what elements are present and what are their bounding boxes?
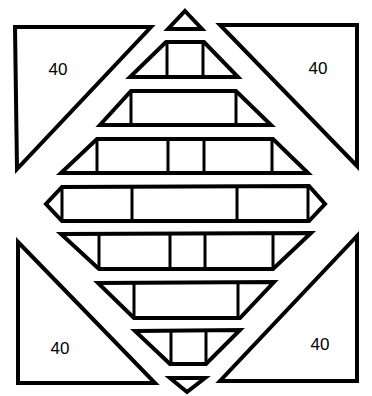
triangle-label-bottom-right: 40 [311, 335, 330, 354]
band-top-triangle [168, 11, 202, 29]
band-5 [61, 233, 311, 269]
band-2 [100, 91, 271, 125]
diagram-canvas: 40 40 40 40 [0, 0, 372, 396]
triangle-label-top-right: 40 [309, 59, 328, 78]
triangle-label-bottom-left: 40 [51, 339, 70, 358]
diamond-diagram: 40 40 40 40 [0, 0, 372, 396]
band-1 [130, 42, 238, 77]
band-3 [61, 139, 308, 173]
band-6 [98, 282, 274, 318]
band-bottom-triangle [170, 378, 205, 392]
band-4-hexagon [46, 186, 325, 221]
band-7 [135, 330, 240, 364]
triangle-label-top-left: 40 [49, 60, 68, 79]
